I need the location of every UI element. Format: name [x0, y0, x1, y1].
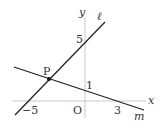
origin-label: O: [73, 104, 82, 117]
line-l-label: ℓ: [97, 10, 102, 23]
tick-y-5: 5: [76, 33, 83, 46]
tick-x-3: 3: [114, 104, 121, 117]
line-m-label: m: [134, 110, 144, 123]
tick-x-neg5: −5: [22, 104, 38, 117]
tick-y-1: 1: [86, 79, 93, 92]
point-p-label: P: [43, 65, 51, 78]
coordinate-diagram: y ℓ 5 P 1 x −5 O 3 m: [0, 0, 165, 132]
x-axis-label: x: [148, 94, 155, 107]
y-axis-label: y: [78, 6, 86, 19]
